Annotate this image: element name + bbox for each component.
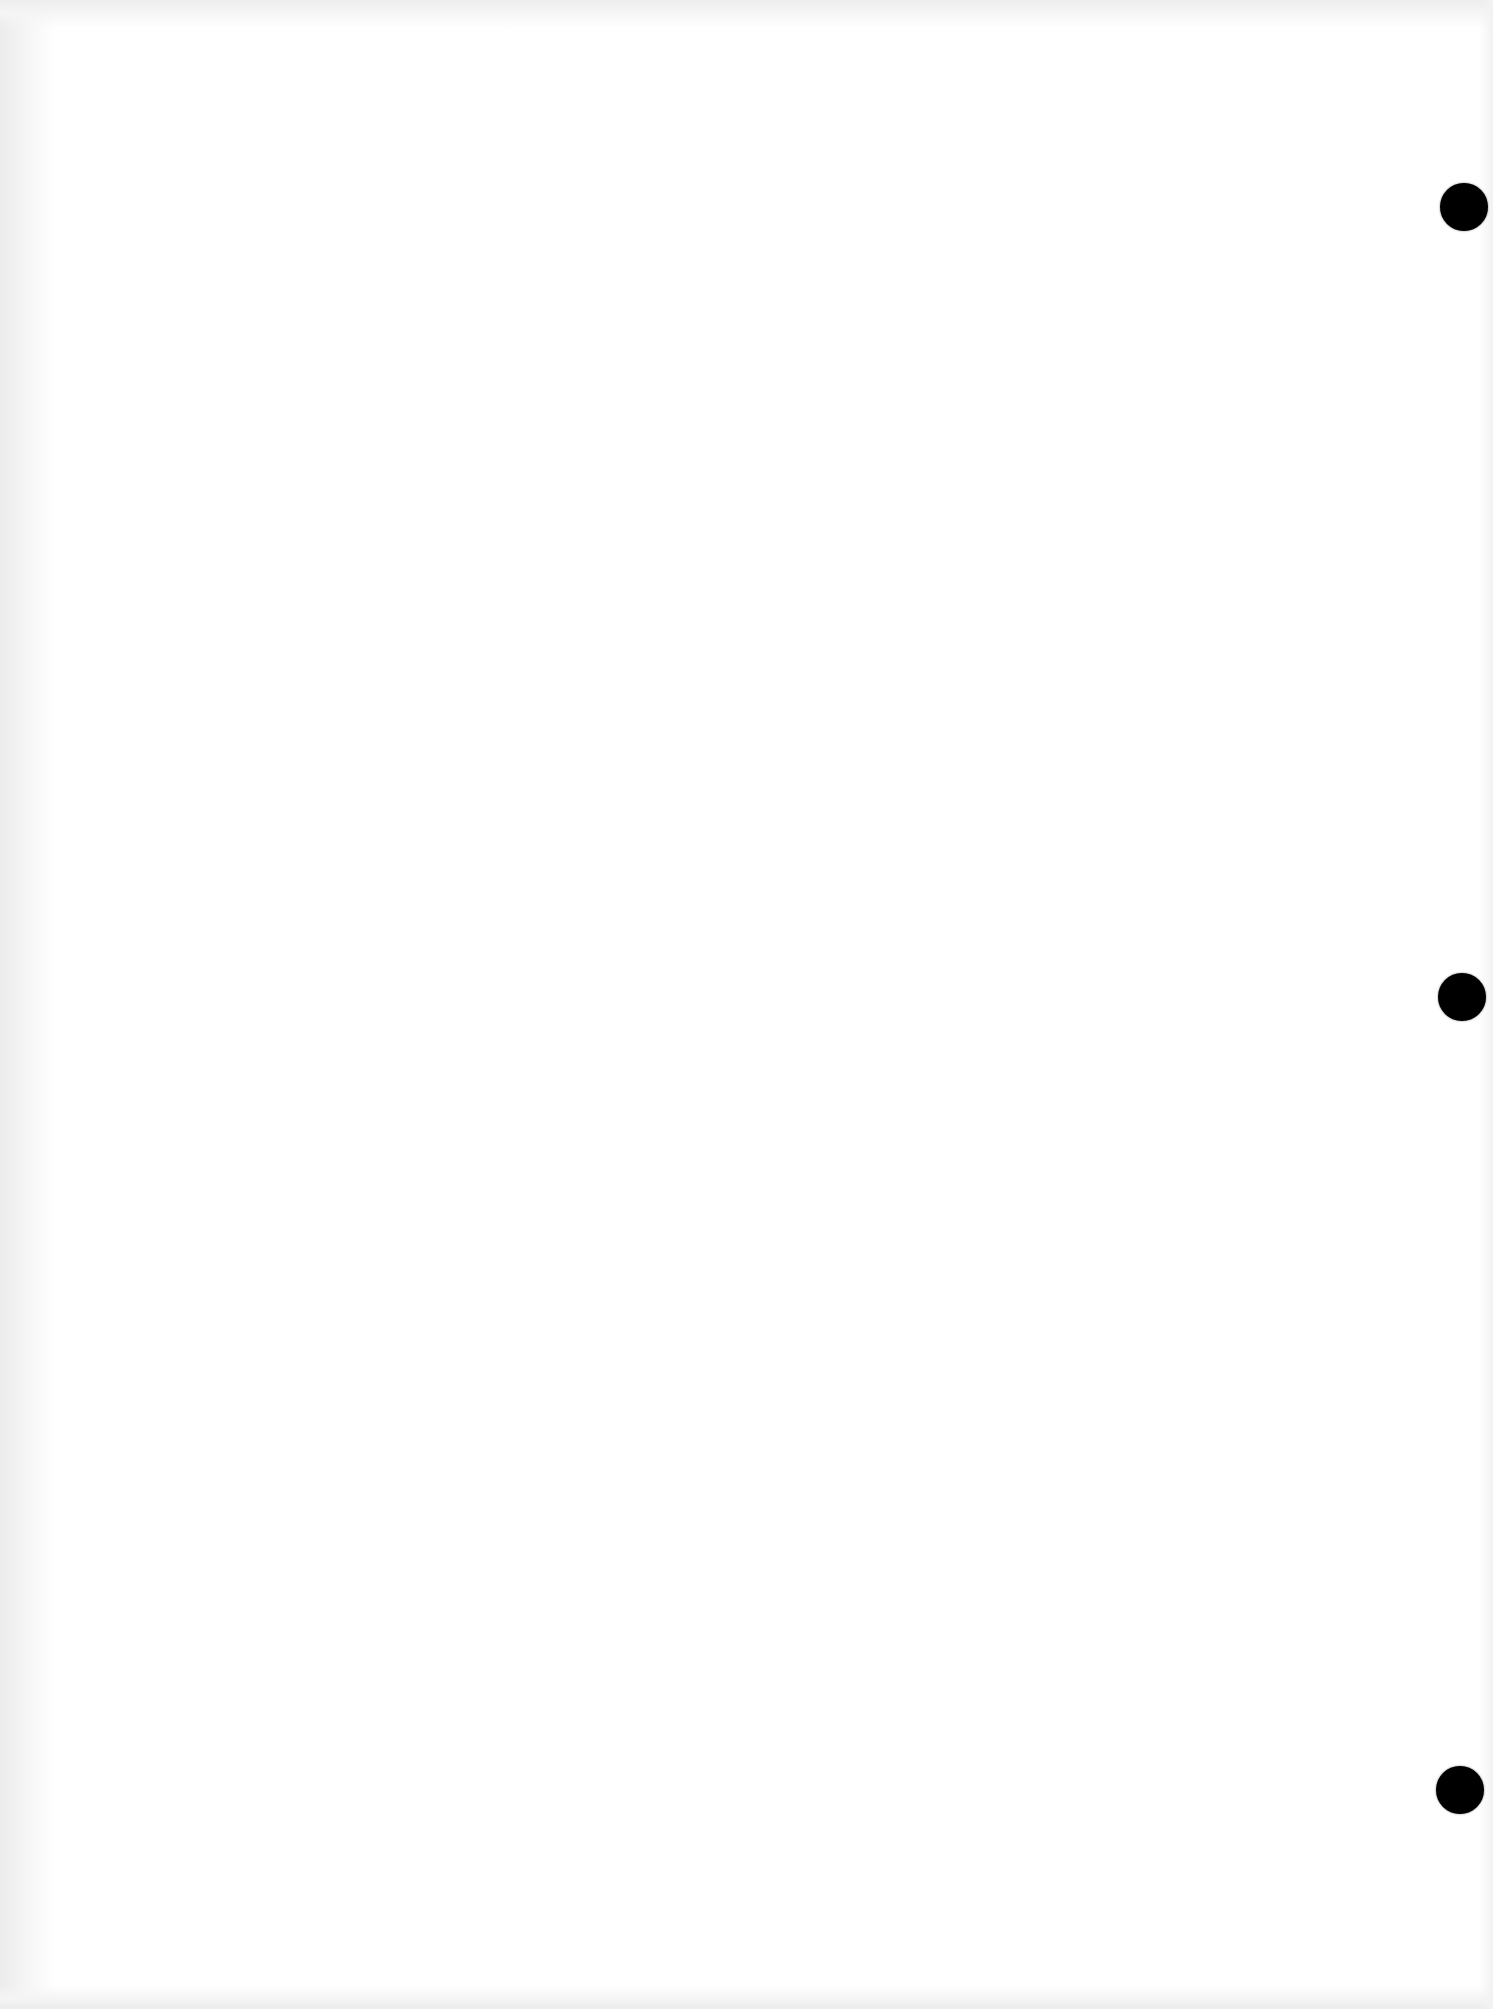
scan-edge-shadow-bottom (0, 1985, 1493, 2009)
punch-hole-top (1440, 183, 1488, 231)
scan-edge-shadow-top (0, 0, 1493, 28)
punch-hole-middle (1438, 973, 1486, 1021)
scanned-page (0, 0, 1493, 2009)
punch-hole-bottom (1436, 1766, 1484, 1814)
scan-edge-shadow-left (0, 0, 55, 2009)
